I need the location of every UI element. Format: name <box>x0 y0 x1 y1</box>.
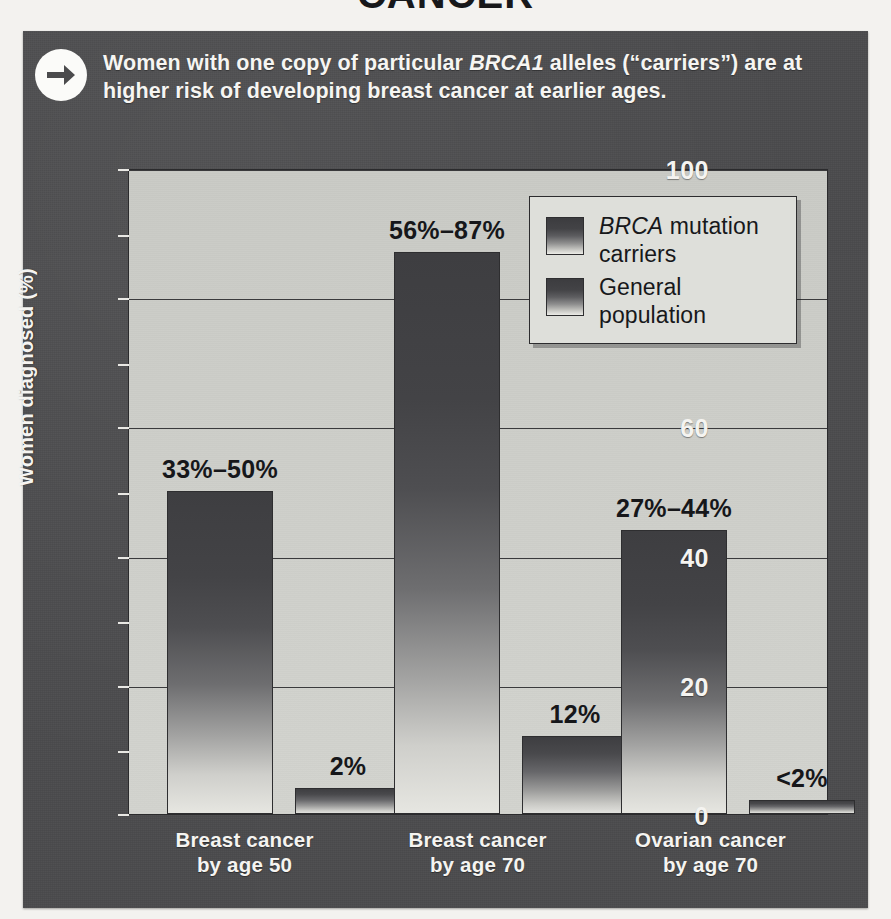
bar-general-ovarian-70[interactable] <box>749 800 855 814</box>
callout: Women with one copy of particular BRCA1 … <box>35 45 855 106</box>
y-tick-label-100: 100 <box>639 156 709 185</box>
tick-major-40 <box>118 557 129 559</box>
legend-label-general: General population <box>599 274 782 329</box>
tick-major-60 <box>118 427 129 429</box>
bar-label-general-ovarian-70: <2% <box>731 764 873 793</box>
bar-carriers-breast-50[interactable] <box>167 491 273 814</box>
tick-minor-30 <box>118 622 129 624</box>
bar-label-general-breast-70: 12% <box>504 700 646 729</box>
gridline-100 <box>129 170 827 171</box>
y-tick-label-20: 20 <box>639 672 709 701</box>
x-category-label-breast-50: Breast cancer by age 50 <box>128 827 361 877</box>
arrow-right-circle-icon <box>35 49 87 101</box>
plot-area: 100 80 60 40 20 0 33%–50% <box>128 169 828 815</box>
x-category-line-2-breast-50: by age 50 <box>128 852 361 877</box>
tick-major-100 <box>118 169 129 171</box>
bar-carriers-breast-70[interactable] <box>394 252 500 814</box>
article-headline: CANCER <box>0 0 891 17</box>
x-category-line-1-ovarian-70: Ovarian cancer <box>594 827 827 852</box>
legend-row-general: General population <box>546 274 782 329</box>
x-category-line-1-breast-50: Breast cancer <box>128 827 361 852</box>
tick-major-0 <box>118 814 129 816</box>
figure-page: CANCER Women with one copy of particular… <box>0 0 891 919</box>
legend-swatch-general <box>546 278 584 316</box>
y-tick-label-60: 60 <box>639 414 709 443</box>
legend: BRCA mutation carriers General populatio… <box>529 196 797 344</box>
bar-label-general-breast-50: 2% <box>277 752 419 781</box>
callout-emphasis-brca1: BRCA1 <box>469 51 544 75</box>
y-axis-title: Women diagnosed (%) <box>15 268 38 486</box>
x-category-line-1-breast-70: Breast cancer <box>361 827 594 852</box>
x-category-label-ovarian-70: Ovarian cancer by age 70 <box>594 827 827 877</box>
x-category-label-breast-70: Breast cancer by age 70 <box>361 827 594 877</box>
callout-text: Women with one copy of particular BRCA1 … <box>103 45 855 106</box>
bar-label-carriers-ovarian-70: 27%–44% <box>593 494 755 523</box>
legend-label-carriers: BRCA mutation carriers <box>599 213 782 268</box>
y-tick-label-40: 40 <box>639 543 709 572</box>
tick-minor-50 <box>118 493 129 495</box>
bar-label-carriers-breast-50: 33%–50% <box>139 455 301 484</box>
figure-panel: Women with one copy of particular BRCA1 … <box>23 31 868 908</box>
legend-emphasis-brca: BRCA <box>599 213 663 239</box>
tick-minor-10 <box>118 751 129 753</box>
tick-major-20 <box>118 686 129 688</box>
callout-text-part-1: Women with one copy of particular <box>103 51 469 75</box>
legend-swatch-carriers <box>546 217 584 255</box>
tick-major-80 <box>118 298 129 300</box>
article-headline-clip: CANCER <box>0 0 891 20</box>
tick-minor-70 <box>118 364 129 366</box>
tick-minor-90 <box>118 235 129 237</box>
x-category-line-2-breast-70: by age 70 <box>361 852 594 877</box>
bar-general-breast-50[interactable] <box>295 788 401 814</box>
legend-row-carriers: BRCA mutation carriers <box>546 213 782 268</box>
bar-label-carriers-breast-70: 56%–87% <box>366 216 528 245</box>
x-category-line-2-ovarian-70: by age 70 <box>594 852 827 877</box>
bar-general-breast-70[interactable] <box>522 736 628 814</box>
